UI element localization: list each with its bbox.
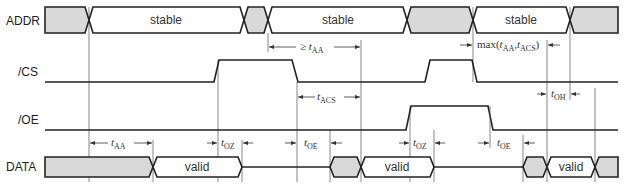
svg-text:tOH: tOH [551,87,566,102]
addr-undefined-2 [244,7,268,33]
svg-text:max(tAA,tACS): max(tAA,tACS) [477,38,540,53]
cs-waveform [45,60,618,82]
timing-max-taa-tacs: max(tAA,tACS) [460,38,560,53]
data-valid-label: valid [185,160,210,174]
addr-undefined-1 [45,7,89,33]
svg-text:tOZ: tOZ [221,136,235,151]
svg-text:tOZ: tOZ [413,136,427,151]
sram-read-timing-diagram: ADDR /CS /OE DATA stable stable stable [0,0,625,193]
addr-waveform: stable stable stable [45,7,618,33]
timing-t-oz-1: tOZ [207,136,253,151]
timing-t-aa-min: ≥ tAA [269,40,360,55]
svg-text:tACS: tACS [317,90,336,105]
addr-stable-label: stable [322,13,354,27]
addr-stable-label: stable [505,13,537,27]
signal-label-data: DATA [6,160,36,174]
oe-waveform [45,106,618,130]
timing-t-oz-2: tOZ [399,136,445,151]
data-undefined-1 [45,157,153,177]
addr-undefined-4 [570,7,618,33]
svg-text:≥ tAA: ≥ tAA [300,40,324,55]
timing-t-oe-1: tOE [285,136,342,151]
addr-undefined-3 [407,7,473,33]
data-waveform: valid valid valid [45,157,618,177]
timing-t-aa: tAA [90,136,152,151]
data-undefined-3 [523,157,547,177]
svg-text:tOE: tOE [497,136,511,151]
data-undefined-2 [330,157,361,177]
signal-label-oe: /OE [18,113,39,127]
timing-t-acs: tACS [298,90,360,105]
timing-t-oe-2: tOE [478,136,535,151]
signal-label-cs: /CS [18,65,38,79]
data-valid-label: valid [559,160,584,174]
timing-t-oh: tOH [537,87,580,102]
svg-text:tAA: tAA [111,136,126,151]
data-valid-label: valid [385,160,410,174]
addr-stable-label: stable [150,13,182,27]
svg-text:tOE: tOE [304,136,318,151]
signal-label-addr: ADDR [6,14,40,28]
data-undefined-4 [595,157,618,177]
